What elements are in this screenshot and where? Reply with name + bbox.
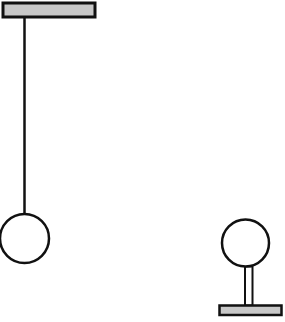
floor-base-bar	[220, 306, 282, 316]
stand-post	[245, 267, 253, 306]
stand-ball	[222, 220, 269, 267]
pendulum-diagram	[0, 0, 285, 322]
standing-ball	[220, 220, 282, 316]
ceiling-support-bar	[3, 3, 95, 17]
hanging-pendulum	[0, 3, 95, 263]
pendulum-bob	[0, 214, 49, 263]
